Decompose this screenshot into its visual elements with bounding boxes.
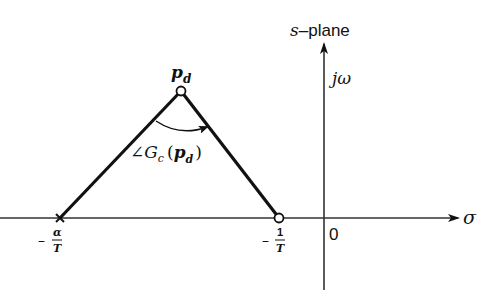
zero-marker <box>275 214 284 223</box>
zero-label: – 1 T <box>262 226 285 255</box>
svg-text:α: α <box>53 226 62 239</box>
origin-label: 0 <box>329 225 338 244</box>
desired-pole-label: pd <box>171 62 192 86</box>
svg-text:T: T <box>53 242 62 255</box>
angle-label: ∠Gc(pd) <box>130 142 202 166</box>
svg-text:–: – <box>38 232 45 248</box>
desired-pole-marker <box>177 87 186 96</box>
svg-text:1: 1 <box>277 226 283 238</box>
s-plane-diagram: s–plane jω σ 0 pd ∠Gc(pd) – α T – 1 T <box>0 0 494 301</box>
angle-arc <box>156 121 207 131</box>
pole-label: – α T <box>38 226 62 255</box>
plane-label: s–plane <box>290 20 350 40</box>
svg-text:T: T <box>276 242 285 255</box>
real-axis-label: σ <box>463 206 477 228</box>
svg-text:–: – <box>262 232 269 248</box>
imaginary-axis-label: jω <box>328 68 351 88</box>
